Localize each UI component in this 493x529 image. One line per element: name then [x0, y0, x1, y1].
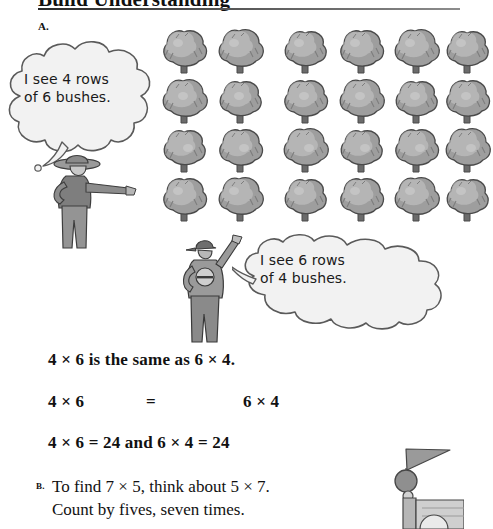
bush-icon [214, 26, 266, 76]
bush-icon [441, 26, 493, 76]
bush-icon [390, 174, 442, 224]
equation-line-1: 4 × 6 is the same as 6 × 4. [48, 350, 235, 370]
bush-icon [279, 76, 331, 126]
farmer-figure-icon [30, 142, 148, 250]
speech-bubble-boy: I see 6 rows of 4 bushes. [232, 232, 464, 332]
bush-icon [279, 125, 331, 175]
bush-icon [158, 125, 210, 175]
flag-post-icon [372, 446, 464, 529]
bush-icon [390, 26, 442, 76]
bush-icon [390, 76, 442, 126]
bush-icon [158, 76, 210, 126]
equation-line-2-left: 4 × 6 [48, 392, 84, 412]
bush-grid [158, 26, 464, 222]
speech-bubble-farmer-text: I see 4 rows of 6 bushes. [24, 71, 146, 107]
bush-icon [214, 76, 266, 126]
bush-icon [214, 125, 266, 175]
equation-line-2-equals: = [146, 392, 156, 412]
bush-icon [335, 174, 387, 224]
bush-icon [335, 26, 387, 76]
section-b-label: B. [36, 481, 45, 491]
equation-line-2-right: 6 × 4 [243, 392, 279, 412]
page-title: Build Understanding [38, 0, 230, 12]
bush-icon [441, 76, 493, 126]
bush-icon [335, 125, 387, 175]
bush-icon [279, 26, 331, 76]
bush-icon [279, 174, 331, 224]
bush-icon [214, 174, 266, 224]
bush-icon [441, 125, 493, 175]
bush-icon [390, 125, 442, 175]
title-divider [38, 8, 460, 10]
bush-icon [158, 174, 210, 224]
equation-line-3: 4 × 6 = 24 and 6 × 4 = 24 [48, 433, 230, 453]
section-a-label: A. [38, 20, 49, 32]
boy-figure-icon [176, 232, 254, 344]
bush-icon [158, 26, 210, 76]
speech-bubble-boy-text: I see 6 rows of 4 bushes. [260, 252, 450, 288]
bush-icon [441, 174, 493, 224]
bush-icon [335, 76, 387, 126]
section-b-text: To find 7 × 5, think about 5 × 7. Count … [52, 476, 382, 521]
